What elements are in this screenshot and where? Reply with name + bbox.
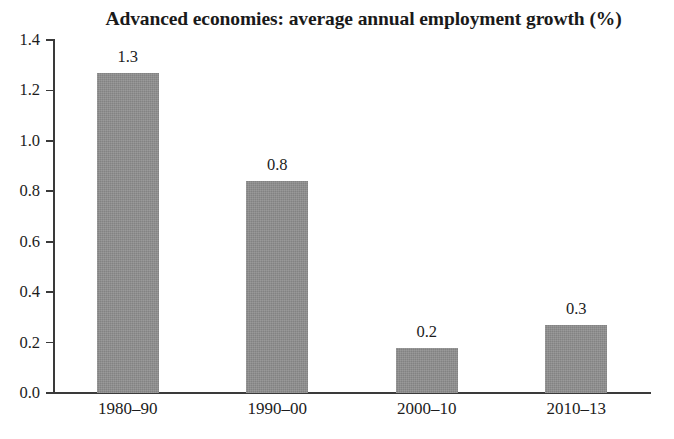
bar-value-label: 0.2 — [387, 324, 467, 341]
y-axis-tick-label: 0.8 — [0, 183, 40, 200]
y-axis-tick-label: 1.0 — [0, 133, 40, 150]
y-axis-tick-label: 1.2 — [0, 82, 40, 99]
bar — [246, 181, 308, 393]
bar-value-label: 0.3 — [536, 301, 616, 318]
bar — [545, 325, 607, 393]
x-axis-tick-label: 2000–10 — [357, 400, 497, 417]
x-axis-tick-label: 1990–00 — [207, 400, 347, 417]
bar-value-label: 0.8 — [237, 157, 317, 174]
y-axis-tick — [46, 90, 53, 92]
y-axis-tick — [46, 190, 53, 192]
y-axis-tick-label: 0.4 — [0, 284, 40, 301]
y-axis-tick — [46, 140, 53, 142]
y-axis-tick — [46, 39, 53, 41]
y-axis-tick — [46, 241, 53, 243]
bar-value-label: 1.3 — [88, 49, 168, 66]
x-axis-tick-label: 1980–90 — [58, 400, 198, 417]
y-axis-tick — [46, 392, 53, 394]
y-axis-tick — [46, 291, 53, 293]
x-axis-tick-label: 2010–13 — [506, 400, 646, 417]
employment-growth-bar-chart: Advanced economies: average annual emplo… — [0, 0, 674, 439]
y-axis-tick-label: 1.4 — [0, 32, 40, 49]
bar — [396, 348, 458, 393]
bar — [97, 73, 159, 393]
chart-title: Advanced economies: average annual emplo… — [53, 8, 674, 30]
y-axis-tick-label: 0.6 — [0, 234, 40, 251]
y-axis-line — [53, 39, 55, 394]
y-axis-tick-label: 0.2 — [0, 335, 40, 352]
y-axis-tick — [46, 342, 53, 344]
y-axis-tick-label: 0.0 — [0, 385, 40, 402]
